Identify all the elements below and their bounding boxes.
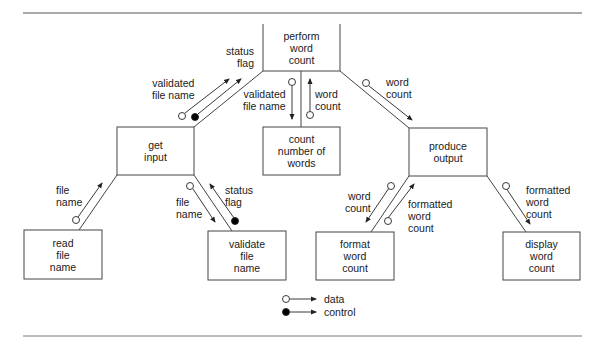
data-couple-icon (179, 113, 186, 120)
data-couple-icon (73, 217, 80, 224)
label-file-name-read: file name (56, 184, 82, 208)
label-validated-file-name: validated file name (152, 77, 195, 101)
data-couple-icon (187, 183, 194, 190)
label-word-count-up: word count (315, 88, 341, 112)
label-file-name-validate: file name (176, 196, 202, 220)
data-couple-icon (385, 218, 392, 225)
label-word-count-format: word count (345, 190, 371, 214)
control-couple-icon (192, 114, 199, 121)
legend-data-icon (283, 296, 290, 303)
module-format-word-count: format word count (316, 232, 394, 280)
data-couple-icon (363, 80, 370, 87)
couple-status-flag-up (198, 79, 241, 114)
legend-data-label: data (324, 293, 344, 305)
module-produce-output: produce output (409, 128, 487, 176)
module-read-file-name: read file name (24, 230, 102, 279)
legend-control-icon (283, 309, 290, 316)
module-display-word-count: display word count (503, 232, 580, 280)
data-couple-icon (388, 183, 395, 190)
data-couple-icon (307, 112, 314, 119)
label-status-flag-validate: status flag (225, 184, 253, 208)
module-validate-file-name: validate file name (208, 231, 286, 280)
module-perform-word-count: perform word count (263, 25, 340, 71)
label-formatted-word-count-up: formatted word count (408, 198, 452, 234)
module-count-number-of-words: count number of words (263, 127, 340, 175)
data-couple-icon (503, 183, 510, 190)
call-getinput-read (79, 175, 117, 230)
data-couple-icon (289, 79, 296, 86)
label-validated-file-name-down: validated file name (243, 88, 286, 112)
label-word-count-down: word count (386, 76, 412, 100)
label-formatted-word-count-down: formatted word count (526, 184, 570, 220)
legend-control-label: control (324, 306, 356, 318)
control-couple-icon (232, 218, 239, 225)
module-get-input: get input (117, 127, 194, 175)
label-status-flag: status flag (226, 45, 254, 69)
